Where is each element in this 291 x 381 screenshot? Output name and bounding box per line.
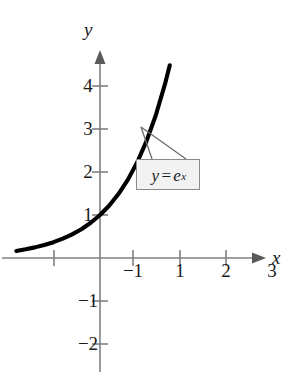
equation-operator: =	[159, 166, 173, 186]
function-label-text: y=ex	[137, 160, 201, 191]
x-tick-label-1: −1	[113, 261, 153, 280]
exponential-function-graph-figure: y=ex y x −1123 4321−1−2	[0, 0, 291, 381]
y-axis-arrowhead	[95, 50, 106, 64]
y-axis-label: y	[84, 20, 92, 39]
function-label-callout: y=ex	[136, 159, 200, 190]
y-tick-label-4: 1	[68, 205, 108, 224]
y-tick-label-5: −1	[68, 291, 108, 310]
y-tick-label-1: 4	[68, 76, 108, 95]
equation-lhs: y	[152, 166, 160, 186]
x-tick-label-4: 3	[252, 261, 291, 280]
y-tick-label-2: 3	[68, 119, 108, 138]
y-tick-label-3: 2	[68, 162, 108, 181]
x-tick-label-2: 1	[160, 261, 200, 280]
y-tick-label-6: −2	[68, 334, 108, 353]
x-tick-label-3: 2	[206, 261, 246, 280]
